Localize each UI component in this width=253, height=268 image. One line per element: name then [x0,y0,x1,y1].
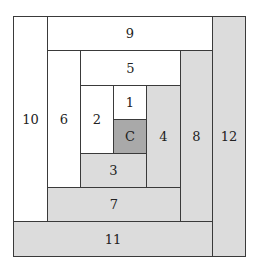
piece-5: 5 [80,50,181,86]
piece-8: 8 [180,50,213,222]
piece-11: 11 [13,221,213,257]
piece-7: 7 [47,187,181,222]
piece-9: 9 [47,16,213,51]
piece-1: 1 [113,85,147,120]
piece-2: 2 [80,85,114,154]
piece-4: 4 [146,85,181,188]
piece-3: 3 [80,153,147,188]
piece-center: C [113,119,147,154]
piece-12: 12 [212,16,246,257]
piece-6: 6 [47,50,81,188]
piece-10: 10 [13,16,48,222]
